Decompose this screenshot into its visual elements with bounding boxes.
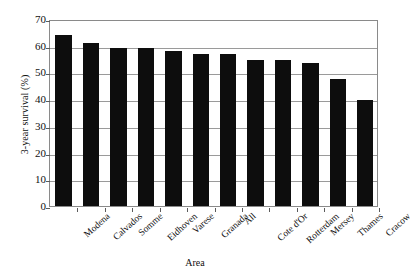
y-axis-tick-label: 40 bbox=[16, 94, 46, 105]
bar-slot bbox=[132, 21, 159, 206]
bar-slot bbox=[160, 21, 187, 206]
bar bbox=[110, 48, 126, 206]
y-axis-tick-label: 50 bbox=[16, 67, 46, 78]
bar-slot bbox=[77, 21, 104, 206]
y-axis-tick-label: 60 bbox=[16, 41, 46, 52]
bars-layer bbox=[50, 21, 377, 206]
y-axis-tick-label: 30 bbox=[16, 121, 46, 132]
bar-slot bbox=[352, 21, 379, 206]
bar bbox=[247, 60, 263, 206]
bar bbox=[275, 60, 291, 206]
bar bbox=[357, 100, 373, 206]
bar bbox=[165, 51, 181, 206]
bar bbox=[302, 63, 318, 206]
y-axis-tick-label: 10 bbox=[16, 174, 46, 185]
x-axis-category-label: Thames bbox=[356, 211, 385, 239]
y-axis-tick-label: 20 bbox=[16, 148, 46, 159]
y-axis-tick bbox=[46, 208, 50, 209]
y-axis-tick-label: 70 bbox=[16, 14, 46, 25]
plot-area bbox=[49, 20, 378, 207]
x-axis-category-label: Cracow bbox=[383, 211, 412, 238]
x-axis-title: Area bbox=[0, 257, 390, 268]
bar bbox=[138, 48, 154, 206]
bar bbox=[83, 43, 99, 206]
bar-slot bbox=[242, 21, 269, 206]
bar-slot bbox=[297, 21, 324, 206]
x-axis-labels: ModenaCalvadosSommeEidhovenVareseGranada… bbox=[49, 211, 378, 255]
bar bbox=[220, 54, 236, 206]
bar-slot bbox=[50, 21, 77, 206]
y-axis-tick-label: 0 bbox=[16, 201, 46, 212]
bar bbox=[193, 54, 209, 206]
bar-slot bbox=[215, 21, 242, 206]
bar bbox=[55, 35, 71, 206]
bar-slot bbox=[269, 21, 296, 206]
bar-slot bbox=[187, 21, 214, 206]
x-axis-category-label: Modena bbox=[82, 211, 112, 239]
bar bbox=[330, 79, 346, 206]
bar-slot bbox=[324, 21, 351, 206]
bar-slot bbox=[105, 21, 132, 206]
